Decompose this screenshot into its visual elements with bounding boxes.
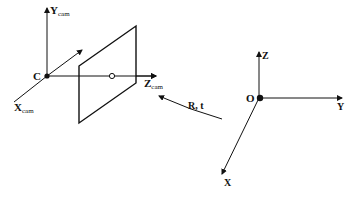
camera-center-dot — [44, 73, 49, 78]
camera-center-label: C — [33, 70, 41, 82]
image-plane — [79, 26, 156, 123]
x-axis-label: X — [224, 177, 232, 188]
y-axis-label: Y — [337, 101, 345, 112]
y-cam-label: Ycam — [50, 4, 70, 18]
transform: R, t — [159, 96, 222, 119]
world-frame: O Z Y X — [222, 50, 345, 188]
principal-point-marker — [109, 73, 114, 78]
x-cam-label: Xcam — [14, 101, 34, 115]
camera-world-diagram: C Ycam Xcam Zcam R, t O Z Y X — [0, 0, 355, 197]
camera-diagonal-axis — [47, 50, 82, 76]
world-origin-label: O — [246, 92, 255, 104]
z-cam-label: Zcam — [144, 77, 164, 91]
image-plane-parallelogram — [79, 26, 136, 123]
x-cam-axis — [14, 76, 47, 102]
z-axis-label: Z — [262, 50, 269, 61]
transform-label: R, t — [188, 100, 204, 111]
x-axis — [222, 98, 259, 174]
world-origin-dot — [257, 95, 263, 101]
